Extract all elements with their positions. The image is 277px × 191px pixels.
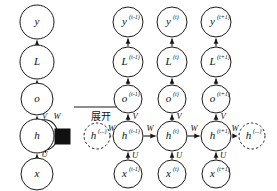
node-label-y-t-1: y: [121, 15, 127, 27]
node-label-h-next-ellipsis: h: [246, 129, 252, 141]
node-superscript-L-t: (t): [173, 54, 179, 61]
node-circle-x-t-1: [114, 160, 142, 188]
node-circle-o-t-1: [114, 85, 142, 113]
node-superscript-h-t: (t): [173, 128, 179, 135]
node-circle-x-t: [158, 160, 186, 188]
node-circle-h-t: [157, 121, 187, 151]
node-label-L-t+1: L: [208, 55, 215, 67]
node-label-folded-x: x: [34, 167, 40, 179]
node-label-o-t+1: o: [210, 92, 216, 104]
rnn-unfolding-diagram: UVWyLohx 展开 UVUVUVWWWWy(t-1)L(t-1)o(t-1)…: [0, 0, 277, 191]
node-label-x-t: x: [165, 167, 171, 179]
node-superscript-x-t-1: (t-1): [129, 166, 140, 173]
node-superscript-y-t: (t): [173, 14, 179, 21]
node-superscript-o-t: (t): [173, 91, 179, 98]
figure-canvas: UVWyLohx 展开 UVUVUVWWWWy(t-1)L(t-1)o(t-1)…: [0, 0, 277, 191]
edge-label-U-t-1: U: [132, 150, 139, 160]
node-label-o-t: o: [166, 92, 172, 104]
node-superscript-x-t: (t): [173, 166, 179, 173]
node-label-folded-L: L: [33, 55, 40, 67]
node-circle-h-prev-ellipsis: [84, 123, 110, 149]
node-circle-y-t+1: [201, 7, 231, 37]
node-label-x-t-1: x: [121, 167, 127, 179]
node-circle-o-t: [158, 85, 186, 113]
edge-label-U-t+1: U: [220, 150, 227, 160]
node-circle-o-t+1: [202, 85, 230, 113]
node-label-folded-h: h: [34, 129, 40, 141]
edge-label-W-1: W: [146, 123, 154, 133]
node-circle-y-t: [157, 7, 187, 37]
node-superscript-h-prev-ellipsis: (...): [98, 128, 107, 135]
node-superscript-x-t+1: (t+1): [217, 166, 230, 173]
node-circle-h-t+1: [201, 121, 231, 151]
node-circle-x-t+1: [202, 160, 230, 188]
node-circle-L-t-1: [113, 47, 143, 77]
folded-rnn-group: UVWyLohx: [20, 5, 70, 190]
node-label-L-t: L: [164, 55, 171, 67]
node-label-h-prev-ellipsis: h: [91, 129, 97, 141]
node-label-y-t+1: y: [209, 15, 215, 27]
node-superscript-o-t-1: (t-1): [129, 91, 140, 98]
node-label-folded-o: o: [34, 92, 40, 104]
edge-label-V-t-1: V: [132, 111, 139, 121]
unfold-annotation-label: 展开: [91, 111, 111, 122]
node-circle-L-t: [157, 47, 187, 77]
edge-label-W-folded: W: [53, 111, 61, 121]
edge-label-V-t+1: V: [220, 111, 227, 121]
node-label-L-t-1: L: [120, 55, 127, 67]
unfolded-rnn-group: UVUVUVWWWWy(t-1)L(t-1)o(t-1)h(t-1)x(t-1)…: [84, 7, 265, 188]
node-label-o-t-1: o: [122, 92, 128, 104]
node-superscript-h-next-ellipsis: (...): [253, 128, 262, 135]
node-label-h-t-1: h: [122, 129, 128, 141]
node-superscript-o-t+1: (t+1): [217, 91, 230, 98]
node-circle-L-t+1: [201, 47, 231, 77]
edge-label-W-2: W: [190, 123, 198, 133]
node-label-h-t: h: [166, 129, 172, 141]
edge-label-V-t: V: [176, 111, 183, 121]
unit-delay-square: [55, 129, 70, 144]
node-label-y-t: y: [165, 15, 171, 27]
node-circle-h-next-ellipsis: [239, 123, 265, 149]
edge-label-U-t: U: [176, 150, 183, 160]
node-circle-y-t-1: [113, 7, 143, 37]
node-label-folded-y: y: [34, 15, 40, 27]
node-superscript-y-t-1: (t-1): [129, 14, 140, 21]
node-superscript-L-t+1: (t+1): [217, 54, 230, 61]
node-label-h-t+1: h: [210, 129, 216, 141]
node-circle-h-t-1: [113, 121, 143, 151]
edge-label-W-3: W: [231, 123, 239, 133]
node-label-x-t+1: x: [209, 167, 215, 179]
node-superscript-y-t+1: (t+1): [217, 14, 230, 21]
node-superscript-h-t+1: (t+1): [217, 128, 230, 135]
node-superscript-h-t-1: (t-1): [129, 128, 140, 135]
node-superscript-L-t-1: (t-1): [129, 54, 140, 61]
